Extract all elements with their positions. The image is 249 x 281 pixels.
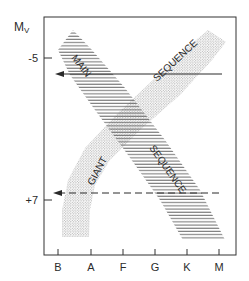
x-ticks xyxy=(58,249,219,255)
xtick-label-a: A xyxy=(84,262,98,273)
xtick-label-k: K xyxy=(180,262,194,273)
xtick-label-m: M xyxy=(212,262,226,273)
xtick-label-g: G xyxy=(148,262,162,273)
xtick-label-f: F xyxy=(116,262,130,273)
xtick-label-b: B xyxy=(51,262,65,273)
ytick-label-plus7: +7 xyxy=(18,195,38,206)
hr-diagram: MAIN SEQUENCE GIANT SEQUENCE xyxy=(0,0,249,281)
ytick-label-minus5: -5 xyxy=(18,53,38,64)
y-axis-label: MV xyxy=(14,22,29,36)
